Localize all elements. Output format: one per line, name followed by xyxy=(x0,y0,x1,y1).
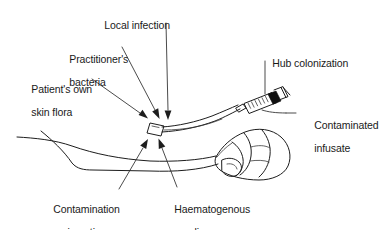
label-local-infection: Local infection xyxy=(93,8,170,43)
label-hub-colonization: Hub colonization xyxy=(261,46,348,81)
label-haematogenous-seeding-line1: Haematogenous xyxy=(174,203,250,215)
catheter-tubing xyxy=(162,105,240,132)
label-contaminated-infusate: Contaminated infusate xyxy=(303,108,378,166)
label-patients-own-skin-flora-line1: Patient's own xyxy=(31,83,92,95)
leader-contamination-on-insertion xyxy=(119,139,148,189)
label-contaminated-infusate-line1: Contaminated xyxy=(314,119,378,131)
label-patients-own-skin-flora: Patient's own skin flora xyxy=(20,72,92,130)
label-contamination-on-insertion-line2: on insertion xyxy=(53,226,106,231)
label-local-infection-line1: Local infection xyxy=(104,19,170,31)
hand-fist xyxy=(215,129,290,180)
forearm-outline xyxy=(17,131,218,171)
leader-haematogenous-seeding xyxy=(159,139,178,188)
label-haematogenous-seeding: Haematogenous seeding xyxy=(163,192,250,230)
syringe xyxy=(236,87,290,114)
diagram-canvas: Local infection Practitioner's bacteria … xyxy=(0,0,385,230)
label-hub-colonization-line1: Hub colonization xyxy=(272,57,348,69)
label-contaminated-infusate-line2: infusate xyxy=(314,142,350,154)
label-haematogenous-seeding-line2: seeding xyxy=(174,226,210,231)
label-patients-own-skin-flora-line2: skin flora xyxy=(31,106,72,118)
insertion-site xyxy=(147,123,164,136)
label-contamination-on-insertion-line1: Contamination xyxy=(53,203,119,215)
leader-contaminated-infusate xyxy=(262,110,296,113)
label-practitioners-bacteria-line1: Practitioner's xyxy=(69,53,128,65)
label-contamination-on-insertion: Contamination on insertion xyxy=(42,192,120,230)
